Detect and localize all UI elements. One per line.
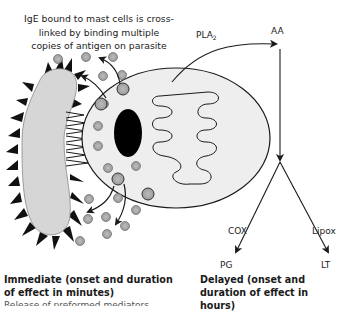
cut-off-text: Release of preformed mediators: [4, 300, 149, 306]
label-lipox: Lipox: [312, 226, 336, 236]
label-cox: COX: [228, 226, 247, 236]
mast-cell-membrane: [82, 68, 270, 208]
label-pg: PG: [220, 260, 232, 270]
nucleus: [114, 109, 142, 157]
heading-immediate: Immediate (onset and duration of effect …: [4, 273, 174, 299]
label-pla2-subscript: 2: [213, 34, 217, 41]
label-pla2: PLA2: [196, 30, 217, 41]
caption-ige-crosslinking: IgE bound to mast cells is cross-linked …: [24, 12, 174, 53]
label-lt: LT: [321, 260, 330, 270]
label-pla2-text: PLA: [196, 30, 213, 40]
mast-cell: [82, 68, 270, 208]
lipox-branch: [280, 162, 328, 252]
heading-delayed: Delayed (onset and duration of effect in…: [200, 273, 338, 312]
parasite-body: [22, 69, 77, 235]
label-aa: AA: [271, 26, 284, 36]
